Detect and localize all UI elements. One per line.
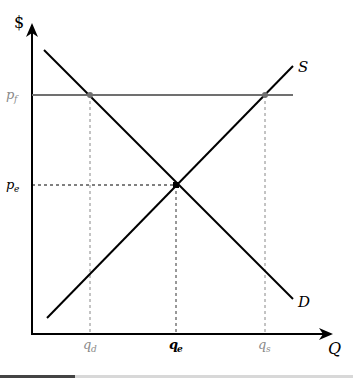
equilibrium-price-label: p e — [6, 177, 19, 194]
demand-curve — [44, 50, 293, 299]
svg-text:e: e — [14, 184, 19, 194]
svg-text:d: d — [91, 344, 97, 354]
qs-point — [262, 92, 268, 98]
svg-text:f: f — [13, 94, 19, 104]
price-floor-label: p f — [6, 87, 19, 104]
equilibrium-point — [173, 182, 179, 188]
supply-curve — [47, 66, 293, 318]
supply-label: S — [298, 58, 308, 76]
svg-text:s: s — [266, 344, 271, 354]
demand-label: D — [297, 293, 310, 311]
y-axis-label: $ — [14, 13, 24, 32]
supply-demand-diagram: $ Q S D p f p e q d q e q s — [0, 0, 353, 378]
svg-text:e: e — [177, 344, 183, 354]
q-equilibrium-label: q e — [169, 337, 183, 354]
x-axis-label: Q — [328, 339, 341, 358]
qd-point — [87, 92, 93, 98]
q-supplied-label: q s — [258, 337, 271, 354]
q-demanded-label: q d — [83, 337, 97, 354]
